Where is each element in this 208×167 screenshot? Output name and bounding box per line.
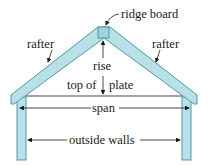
ridge-board-pointer <box>106 14 119 25</box>
left-rafter <box>11 27 104 104</box>
roof-framing-diagram: ridge board rafter rafter rise top of pl… <box>0 0 208 167</box>
outside-walls-label: outside walls <box>69 133 135 147</box>
ridge-board <box>98 27 109 38</box>
rafter-right-label: rafter <box>152 37 180 51</box>
top-of-label: top of <box>67 78 97 92</box>
rafter-left-pointer <box>48 50 52 62</box>
span-label: span <box>92 101 116 115</box>
ridge-board-label: ridge board <box>121 7 179 21</box>
right-wall <box>182 97 191 160</box>
left-wall <box>17 97 26 160</box>
rafter-right-pointer <box>156 50 160 62</box>
rafter-left-label: rafter <box>27 37 55 51</box>
rise-label: rise <box>93 59 112 73</box>
plate-label: plate <box>109 78 134 92</box>
right-rafter <box>104 27 197 104</box>
